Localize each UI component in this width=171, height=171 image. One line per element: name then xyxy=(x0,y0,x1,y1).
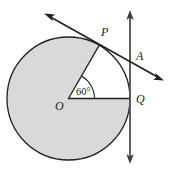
tangent-P-arrowhead-upper-left xyxy=(44,14,55,22)
label-point-O: O xyxy=(55,99,64,113)
geometry-figure: P A Q O 60° xyxy=(0,0,171,171)
label-point-Q: Q xyxy=(136,92,145,106)
tangent-P-arrowhead-lower-right xyxy=(153,73,164,81)
label-point-P: P xyxy=(100,25,109,39)
label-central-angle: 60° xyxy=(76,86,91,97)
geometry-diagram-canvas: P A Q O 60° xyxy=(0,0,171,171)
label-point-A: A xyxy=(135,49,144,63)
